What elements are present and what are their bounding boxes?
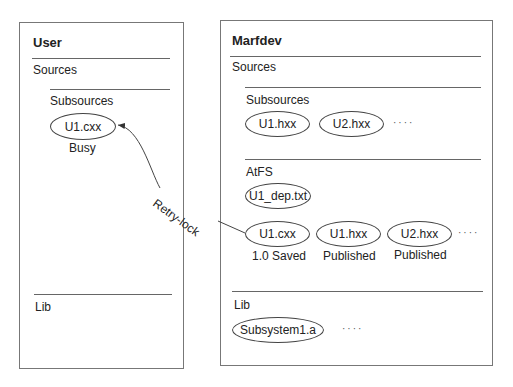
retry-lock-arrow (0, 0, 513, 387)
